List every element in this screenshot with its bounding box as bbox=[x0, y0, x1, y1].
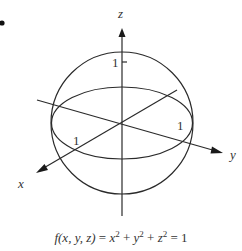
z-axis-arrow-icon bbox=[119, 28, 126, 37]
formula-equals: = bbox=[96, 230, 110, 245]
x-axis bbox=[42, 90, 177, 169]
bullet-marker bbox=[0, 20, 5, 25]
formula-rhs: = 1 bbox=[167, 230, 187, 245]
unit-sphere-diagram: z y x 1 1 1 bbox=[0, 0, 242, 251]
y-axis-label: y bbox=[228, 147, 236, 162]
y-tick-label: 1 bbox=[177, 118, 184, 133]
formula-plus-2: + bbox=[144, 230, 158, 245]
z-axis-label: z bbox=[117, 6, 123, 21]
y-axis-arrow-icon bbox=[211, 147, 224, 154]
x-axis-label: x bbox=[17, 176, 24, 191]
x-tick-label: 1 bbox=[73, 133, 80, 148]
z-tick-label: 1 bbox=[112, 55, 119, 70]
sphere-equation: f(x, y, z) = x2 + y2 + z2 = 1 bbox=[0, 229, 242, 246]
x-axis-arrow-icon bbox=[36, 164, 48, 173]
formula-lhs: f(x, y, z) bbox=[54, 230, 95, 245]
formula-plus-1: + bbox=[120, 230, 134, 245]
